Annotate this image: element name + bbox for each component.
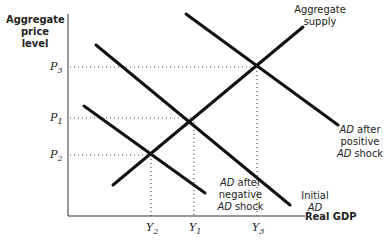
aggregate-supply-curve: [113, 27, 303, 185]
tick-p1: P1: [50, 111, 63, 126]
positive-ad-curve: [186, 14, 338, 125]
tick-y1: Y1: [189, 221, 201, 236]
positive-ad-label: AD after positive AD shock: [330, 124, 390, 160]
tick-p2: P2: [50, 148, 63, 163]
negative-ad-label: AD after negative AD shock: [203, 177, 278, 213]
tick-p3: P3: [50, 60, 63, 75]
as-label: Aggregatesupply: [280, 4, 360, 28]
initial-ad-label: InitialAD: [290, 190, 340, 214]
tick-y3: Y3: [252, 221, 264, 236]
y-axis-label: Aggregatepricelevel: [6, 14, 64, 50]
tick-y2: Y2: [146, 221, 158, 236]
